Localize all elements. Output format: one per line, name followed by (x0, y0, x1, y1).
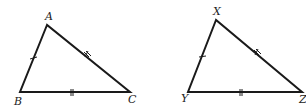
vertex-label-c: C (128, 93, 137, 106)
triangle-abc-outline (20, 25, 130, 92)
vertex-label-a: A (44, 10, 53, 23)
tick-ac (84, 51, 91, 57)
triangle-xyz: X Y Z (181, 5, 306, 106)
vertex-label-x: X (212, 5, 222, 18)
tick-xy (199, 56, 206, 57)
vertex-label-b: B (13, 95, 22, 108)
vertex-label-z: Z (298, 93, 306, 106)
vertex-label-y: Y (181, 92, 190, 105)
congruent-triangles-diagram: A B C X Y Z (0, 0, 306, 111)
triangle-abc: A B C (13, 10, 137, 108)
